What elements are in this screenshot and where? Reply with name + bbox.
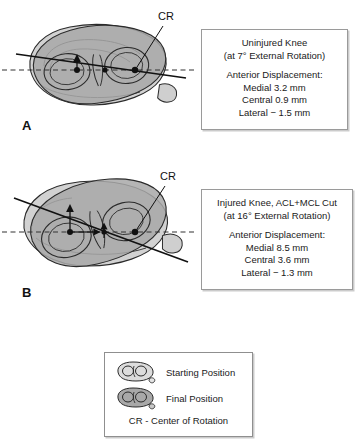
center-of-rotation-dot-a bbox=[132, 67, 138, 73]
info-heading-b: Anterior Displacement: bbox=[208, 229, 346, 242]
info-box-uninjured-knee: Uninjured Knee (at 7° External Rotation)… bbox=[201, 29, 348, 130]
info-row-central-a: Central 0.9 mm bbox=[208, 94, 341, 107]
info-row-lateral-a: Lateral − 1.5 mm bbox=[208, 107, 341, 120]
panel-letter-b: B bbox=[22, 285, 32, 300]
knee-outline-light-icon bbox=[114, 360, 157, 384]
legend-note-center-of-rotation: CR - Center of Rotation bbox=[105, 415, 252, 426]
info-row-central-b: Central 3.6 mm bbox=[208, 254, 346, 267]
legend-label-final-position: Final Position bbox=[166, 393, 223, 404]
spacer bbox=[208, 222, 346, 229]
legend-box: Starting Position Final Position CR - Ce… bbox=[104, 352, 253, 437]
info-subtitle-b: (at 16° External Rotation) bbox=[208, 210, 346, 223]
legend-item-final-position: Final Position bbox=[105, 385, 252, 411]
info-heading-a: Anterior Displacement: bbox=[208, 69, 341, 82]
info-title-b: Injured Knee, ACL+MCL Cut bbox=[208, 197, 346, 210]
info-row-medial-a: Medial 3.2 mm bbox=[208, 82, 341, 95]
info-row-lateral-b: Lateral − 1.3 mm bbox=[208, 267, 346, 280]
knee-outline-dark-icon bbox=[114, 386, 157, 410]
info-title-a: Uninjured Knee bbox=[208, 37, 341, 50]
info-row-medial-b: Medial 8.5 mm bbox=[208, 242, 346, 255]
cr-label-b: CR bbox=[160, 170, 176, 182]
center-of-rotation-dot-b bbox=[132, 229, 138, 235]
legend-label-starting-position: Starting Position bbox=[166, 367, 235, 378]
cr-label-a: CR bbox=[158, 10, 174, 22]
info-subtitle-a: (at 7° External Rotation) bbox=[208, 50, 341, 63]
spacer bbox=[208, 62, 341, 69]
info-box-injured-knee: Injured Knee, ACL+MCL Cut (at 16° Extern… bbox=[201, 189, 353, 290]
panel-letter-a: A bbox=[22, 118, 32, 133]
legend-item-starting-position: Starting Position bbox=[105, 359, 252, 385]
central-point-dot-a bbox=[102, 67, 107, 72]
